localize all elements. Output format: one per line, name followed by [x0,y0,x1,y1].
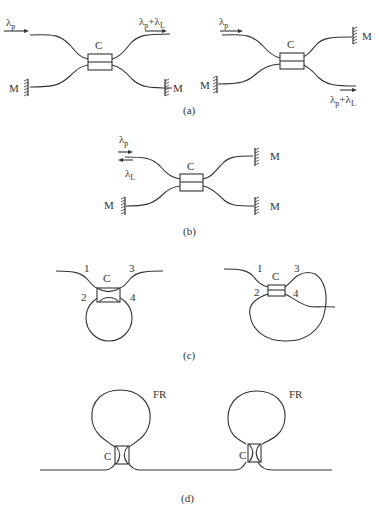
mirror-icon [353,27,357,44]
port-label: 3 [294,262,300,274]
mirror-label: M [362,30,372,42]
port-label: 4 [293,287,299,299]
panel-c-left: C 1 2 3 4 [56,262,163,341]
mirror-icon [255,197,259,215]
port-label: 4 [130,291,136,303]
output-wavelength-label: λp+λL [330,93,356,108]
arrow-head-icon [24,29,29,33]
fiber-laser-configurations-figure: λp C λp+λL M M λp [0,0,379,514]
coupler-box [115,446,129,464]
fiber-port-1 [56,271,97,288]
fiber-port-3 [120,271,163,288]
port-label: 2 [254,286,260,298]
mirror-label: M [270,150,280,162]
arrow-head-icon [128,150,133,154]
mirror-label: M [270,200,280,212]
mirror-icon [121,197,125,215]
mirror-icon [213,76,217,93]
coupler-label: C [95,39,102,51]
output-wavelength-label: λp+λL [139,15,165,30]
fiber-ring [228,391,285,444]
port-label: 1 [257,262,263,274]
panel-a-left: λp C λp+λL M M [4,15,183,96]
ring-label: FR [153,388,167,400]
mirror-label: M [104,199,114,211]
pump-wavelength-label: λp [219,15,228,30]
panel-d-caption: (d) [181,492,194,505]
coupler-box [248,444,261,462]
panel-c-caption: (c) [183,349,196,362]
panel-a-right: λp C M M λp+λL [200,15,372,108]
coupler-label: C [104,450,111,462]
panel-d: C FR C FR [40,388,332,470]
coupler-label: C [239,449,246,461]
fiber-ring [92,390,150,448]
coupler-label: C [187,160,194,172]
bus-fiber [258,462,332,470]
arrow-head-icon [352,88,357,92]
port-label: 3 [129,262,135,274]
arrow-head-icon [118,158,123,162]
bus-fiber [128,462,246,470]
pump-wavelength-label: λp [6,16,15,31]
panel-c-right: C 1 2 3 4 [224,262,335,341]
laser-wavelength-label: λL [125,167,135,182]
panel-a-caption: (a) [183,104,196,117]
panel-b-caption: (b) [183,225,196,238]
mirror-label: M [173,82,183,94]
ring-label: FR [289,388,303,400]
port-label: 1 [84,262,90,274]
mirror-label: M [200,79,210,91]
port-label: 2 [81,291,87,303]
bus-fiber [40,462,116,470]
mirror-icon [255,148,259,166]
panel-b: λp λL C M M [104,133,280,215]
coupler-label: C [103,272,110,284]
mirror-icon [24,79,28,96]
coupler-label: C [287,38,294,50]
coupler-label: C [272,270,279,282]
mirror-label: M [9,82,19,94]
arrow-head-icon [238,29,243,33]
pump-wavelength-label: λp [119,133,128,148]
